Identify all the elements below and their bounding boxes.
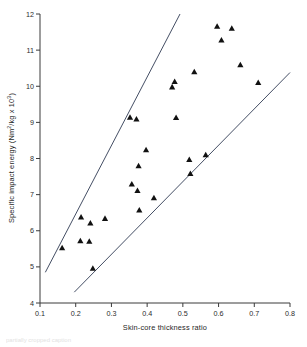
y-tick-label: 9 — [30, 118, 34, 127]
scatter-chart: 456789101112 0.10.20.30.40.50.60.70.8 Sk… — [0, 0, 307, 347]
data-point-marker — [169, 84, 175, 90]
x-tick-group: 0.10.20.30.40.50.60.70.8 — [35, 303, 295, 318]
x-tick-label: 0.6 — [214, 309, 224, 318]
x-axis-title: Skin-core thickness ratio — [123, 323, 207, 332]
x-tick-label: 0.4 — [142, 309, 152, 318]
data-point-marker — [134, 188, 140, 194]
y-tick-label: 8 — [30, 154, 34, 163]
y-axis-title-main: Specific impact energy (Nm — [7, 129, 16, 223]
data-point-marker — [203, 152, 209, 158]
data-point-marker — [90, 265, 96, 271]
data-point-marker — [102, 215, 108, 221]
lower-bound-line — [74, 73, 290, 293]
data-point-marker — [87, 220, 93, 226]
y-tick-group: 456789101112 — [26, 10, 40, 308]
data-point-marker — [143, 147, 149, 153]
y-tick-label: 12 — [26, 10, 34, 19]
figure-caption: partially cropped caption — [6, 337, 71, 343]
data-point-marker — [173, 115, 179, 121]
data-point-marker — [214, 23, 220, 29]
figure-caption-strip: partially cropped caption — [0, 336, 307, 347]
svg-text:Specific impact energy (Nm2/kg: Specific impact energy (Nm2/kg x 103) — [6, 93, 16, 223]
data-point-marker — [191, 69, 197, 75]
figure-container: 456789101112 0.10.20.30.40.50.60.70.8 Sk… — [0, 0, 307, 347]
y-tick-label: 11 — [27, 46, 34, 55]
y-tick-label: 5 — [30, 262, 34, 271]
data-point-marker — [218, 37, 224, 43]
x-tick-label: 0.7 — [249, 309, 259, 318]
axes-group — [40, 14, 290, 303]
boundary-lines-group — [45, 14, 290, 292]
data-point-marker — [237, 62, 243, 68]
data-point-marker — [86, 238, 92, 244]
data-point-marker — [229, 25, 235, 31]
y-tick-label: 4 — [30, 299, 34, 308]
x-tick-label: 0.1 — [35, 309, 45, 318]
data-point-marker — [129, 181, 135, 187]
data-point-marker — [172, 78, 178, 84]
x-tick-label: 0.2 — [71, 309, 81, 318]
data-point-marker — [255, 80, 261, 86]
x-tick-label: 0.5 — [178, 309, 188, 318]
data-point-marker — [59, 245, 65, 251]
data-point-marker — [151, 195, 157, 201]
data-point-marker — [133, 116, 139, 122]
y-axis-title-end: ) — [7, 93, 16, 96]
data-point-marker — [78, 214, 84, 220]
data-point-marker — [136, 207, 142, 213]
y-tick-label: 7 — [30, 190, 34, 199]
upper-bound-line — [45, 14, 180, 272]
y-tick-label: 6 — [30, 226, 34, 235]
y-axis-title: Specific impact energy (Nm2/kg x 103) — [6, 93, 16, 223]
data-point-marker — [135, 163, 141, 169]
y-axis-title-mid: /kg x 10 — [7, 99, 16, 126]
y-tick-label: 10 — [26, 82, 34, 91]
data-point-marker — [186, 156, 192, 162]
data-point-marker — [77, 238, 83, 244]
data-points-group — [59, 23, 261, 271]
x-tick-label: 0.8 — [285, 309, 295, 318]
x-tick-label: 0.3 — [106, 309, 116, 318]
